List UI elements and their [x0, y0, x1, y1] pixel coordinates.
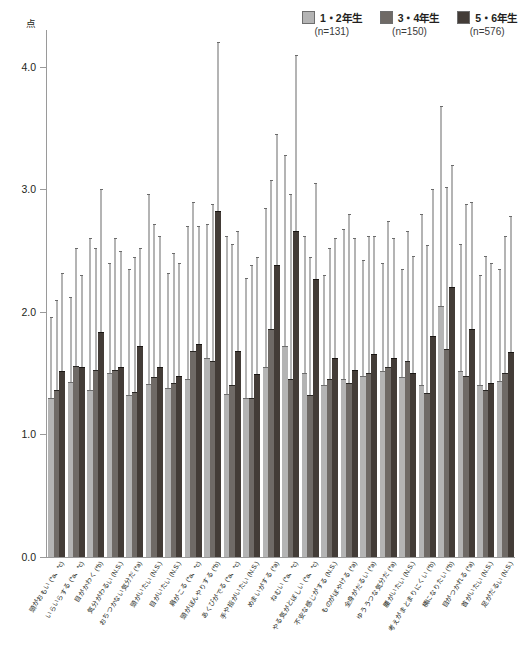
- bar-group: [282, 30, 300, 557]
- error-bar-cap: [128, 269, 131, 270]
- error-bar-whisker: [388, 221, 389, 367]
- bar-column: [118, 30, 124, 557]
- bar-group: [87, 30, 105, 557]
- bar-series-2: [469, 329, 475, 557]
- error-bar-cap: [328, 248, 331, 249]
- error-bar-cap: [387, 221, 390, 222]
- error-bar-whisker: [212, 204, 213, 361]
- error-bar-whisker: [427, 245, 428, 393]
- bar-column: [59, 30, 65, 557]
- error-bar-whisker: [70, 297, 71, 382]
- error-bar-cap: [401, 269, 404, 270]
- plot-area: [47, 30, 515, 557]
- error-bar-cap: [498, 269, 501, 270]
- error-bar-whisker: [62, 273, 63, 371]
- error-bar-whisker: [480, 275, 481, 385]
- error-bar-cap: [314, 183, 317, 184]
- error-bar-whisker: [134, 257, 135, 392]
- error-bar-whisker: [120, 251, 121, 367]
- error-bar-whisker: [324, 275, 325, 385]
- bar-group: [243, 30, 261, 557]
- bar-column: [293, 30, 299, 557]
- y-tick-mark: [40, 557, 47, 558]
- bar-group: [126, 30, 144, 557]
- bar-column: [157, 30, 163, 557]
- error-bar-whisker: [179, 263, 180, 376]
- legend-swatch-icon: [457, 11, 470, 24]
- error-bar-cap: [459, 244, 462, 245]
- error-bar-whisker: [354, 238, 355, 369]
- grouped-bar-chart: 1・2年生(n=131)3・4年生(n=150)5・6年生(n=576) 点 0…: [0, 0, 523, 648]
- error-bar-whisker: [432, 189, 433, 336]
- bar-series-2: [449, 287, 455, 557]
- error-bar-cap: [470, 202, 473, 203]
- error-bar-cap: [108, 263, 111, 264]
- error-bar-cap: [178, 263, 181, 264]
- error-bar-cap: [211, 204, 214, 205]
- error-bar-cap: [55, 300, 58, 301]
- error-bar-whisker: [90, 238, 91, 390]
- bar-series-2: [254, 374, 260, 557]
- bar-series-2: [293, 231, 299, 557]
- bar-group: [360, 30, 378, 557]
- bar-series-2: [313, 279, 319, 557]
- error-bar-whisker: [154, 224, 155, 377]
- y-axis-unit-label: 点: [26, 16, 36, 30]
- error-bar-whisker: [329, 248, 330, 379]
- legend-item-top: 5・6年生: [457, 10, 517, 25]
- error-bar-whisker: [109, 263, 110, 373]
- legend-label: 3・4年生: [398, 10, 440, 25]
- error-bar-whisker: [232, 244, 233, 385]
- error-bar-whisker: [76, 248, 77, 366]
- error-bar-whisker: [115, 238, 116, 369]
- bar-series-2: [176, 376, 182, 557]
- error-bar-cap: [206, 224, 209, 225]
- bar-group: [419, 30, 437, 557]
- error-bar-cap: [353, 238, 356, 239]
- bar-column: [79, 30, 85, 557]
- error-bar-cap: [158, 236, 161, 237]
- error-bar-whisker: [421, 214, 422, 386]
- error-bar-whisker: [315, 183, 316, 279]
- bar-series-2: [118, 367, 124, 557]
- y-tick-mark: [40, 434, 47, 435]
- bar-group: [302, 30, 320, 557]
- bar-group: [48, 30, 66, 557]
- error-bar-cap: [309, 257, 312, 258]
- error-bar-cap: [89, 238, 92, 239]
- legend-item-top: 1・2年生: [302, 10, 362, 25]
- error-bar-cap: [225, 236, 228, 237]
- x-axis-labels: 頭がおもい (*a、*c)いらいらする (*a、*c)目がかわく (*b)気分が…: [47, 560, 517, 648]
- bar-column: [137, 30, 143, 557]
- error-bar-cap: [197, 226, 200, 227]
- legend-item-top: 3・4年生: [380, 10, 440, 25]
- error-bar-whisker: [382, 263, 383, 371]
- bar-column: [274, 30, 280, 557]
- error-bar-whisker: [51, 317, 52, 398]
- error-bar-whisker: [290, 194, 291, 379]
- error-bar-whisker: [101, 189, 102, 331]
- error-bar-cap: [367, 236, 370, 237]
- error-bar-whisker: [310, 257, 311, 395]
- bar-series-2: [430, 336, 436, 557]
- error-bar-whisker: [193, 202, 194, 352]
- bar-series-2: [98, 332, 104, 558]
- bar-group: [107, 30, 125, 557]
- error-bar-whisker: [159, 236, 160, 367]
- error-bar-cap: [61, 273, 64, 274]
- error-bar-whisker: [499, 269, 500, 381]
- y-tick-label: 0.0: [8, 551, 36, 563]
- error-bar-whisker: [510, 216, 511, 352]
- error-bar-whisker: [198, 226, 199, 344]
- bar-column: [371, 30, 377, 557]
- error-bar-cap: [342, 229, 345, 230]
- bar-column: [430, 30, 436, 557]
- bar-series-2: [157, 367, 163, 557]
- error-bar-whisker: [343, 229, 344, 380]
- bar-group: [341, 30, 359, 557]
- error-bar-cap: [270, 180, 273, 181]
- y-tick-label: 4.0: [8, 61, 36, 73]
- error-bar-whisker: [393, 238, 394, 358]
- error-bar-cap: [186, 226, 189, 227]
- error-bar-cap: [284, 155, 287, 156]
